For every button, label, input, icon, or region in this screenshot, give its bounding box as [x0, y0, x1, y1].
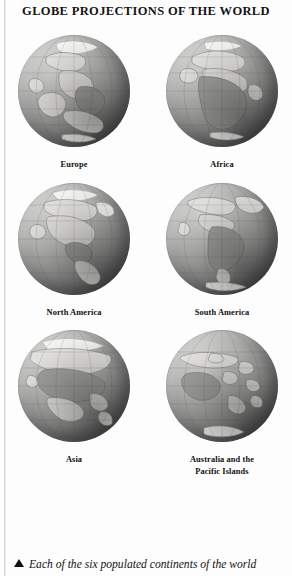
globe-image-australia-pacific [164, 325, 280, 447]
globe-label-text-line2: Pacific Islands [195, 467, 248, 476]
globe-label-africa: Africa [210, 159, 233, 171]
globe-landmass-europe [18, 35, 130, 147]
globe-landmass-north-america [18, 183, 130, 295]
globe-label-text: Australia and the [190, 455, 254, 464]
globe-sphere-icon [18, 183, 130, 295]
solid-triangle-up-icon [14, 559, 24, 567]
globe-cell-europe: Europe [8, 30, 140, 171]
globe-image-south-america [164, 178, 280, 300]
page-title: GLOBE PROJECTIONS OF THE WORLD [0, 4, 292, 19]
globe-image-africa [164, 30, 280, 152]
globe-label-asia: Asia [66, 454, 82, 466]
globe-grid-row: Asia [8, 325, 288, 477]
figure-caption: Each of the six populated continents of … [14, 558, 284, 572]
globe-landmass-south-america [166, 183, 278, 295]
globe-grid-row: North America [8, 178, 288, 319]
globe-image-europe [16, 30, 132, 152]
globe-label-north-america: North America [46, 307, 101, 319]
globe-sphere-icon [18, 330, 130, 442]
globe-cell-south-america: South America [156, 178, 288, 319]
scan-gutter-line-secondary [5, 0, 6, 576]
document-page: GLOBE PROJECTIONS OF THE WORLD [0, 0, 292, 576]
globe-label-text: Europe [61, 160, 88, 169]
globe-sphere-icon [18, 35, 130, 147]
globe-label-text: Asia [66, 455, 82, 464]
globe-grid: Europe [8, 30, 288, 484]
globe-label-south-america: South America [195, 307, 250, 319]
globe-sphere-icon [166, 35, 278, 147]
globe-landmass-australia-pacific [166, 330, 278, 442]
globe-grid-row: Europe [8, 30, 288, 171]
globe-sphere-icon [166, 330, 278, 442]
globe-label-text: North America [46, 308, 101, 317]
globe-landmass-asia [18, 330, 130, 442]
globe-label-europe: Europe [61, 159, 88, 171]
globe-cell-asia: Asia [8, 325, 140, 477]
globe-cell-australia-pacific: Australia and the Pacific Islands [156, 325, 288, 477]
globe-label-text: Africa [210, 160, 233, 169]
globe-label-text: South America [195, 308, 250, 317]
globe-cell-north-america: North America [8, 178, 140, 319]
figure-caption-text: Each of the six populated continents of … [29, 558, 256, 572]
globe-sphere-icon [166, 183, 278, 295]
globe-landmass-africa [166, 35, 278, 147]
globe-cell-africa: Africa [156, 30, 288, 171]
globe-image-north-america [16, 178, 132, 300]
globe-label-australia-pacific: Australia and the Pacific Islands [190, 454, 254, 477]
globe-image-asia [16, 325, 132, 447]
